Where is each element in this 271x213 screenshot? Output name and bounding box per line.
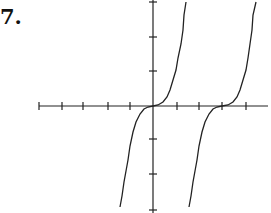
function-graph bbox=[0, 0, 271, 213]
